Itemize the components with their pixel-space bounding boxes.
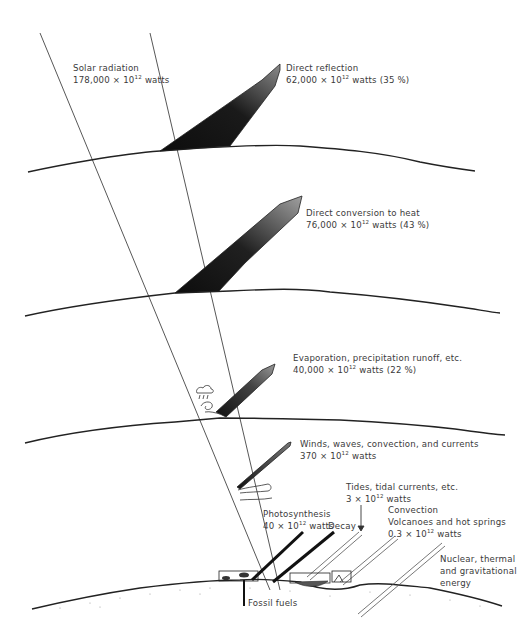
heat-arrow: [175, 196, 302, 293]
label-tides: Tides, tidal currents, etc. 3 × 1012 wat…: [346, 481, 458, 505]
label-nuclear: Nuclear, thermal and gravitational energ…: [440, 553, 517, 589]
convection-arrow: [340, 536, 398, 585]
label-photosynthesis: Photosynthesis 40 × 1012 watts: [263, 508, 334, 532]
label-fossil-fuels: Fossil fuels: [248, 597, 297, 609]
evaporation-arrow: [216, 364, 275, 417]
boundary-second: [25, 289, 500, 316]
nuclear-arrow: [358, 543, 445, 617]
label-convection: Convection Volcanoes and hot springs 0.3…: [388, 504, 506, 540]
label-direct-reflection: Direct reflection 62,000 × 1012 watts (3…: [286, 62, 409, 86]
label-winds: Winds, waves, convection, and currents 3…: [300, 438, 479, 462]
boundary-top: [28, 145, 475, 172]
tides-pointer: [358, 505, 364, 531]
vegetation-icon: [222, 573, 249, 581]
cloud-rain-icon: [197, 385, 214, 399]
solar-value: 178,000 × 10: [73, 75, 135, 85]
label-direct-heat: Direct conversion to heat 76,000 × 1012 …: [306, 207, 429, 231]
energy-flow-diagram: [0, 0, 530, 644]
label-solar-radiation: Solar radiation 178,000 × 1012 watts: [73, 62, 169, 86]
winds-arrow: [237, 442, 291, 489]
label-decay: Decay: [328, 520, 356, 532]
label-evaporation: Evaporation, precipitation runoff, etc. …: [293, 352, 462, 376]
reflection-arrow: [160, 64, 280, 151]
ocean-basin: [295, 581, 328, 586]
decay-arrow: [273, 532, 334, 582]
solar-title: Solar radiation: [73, 62, 169, 74]
